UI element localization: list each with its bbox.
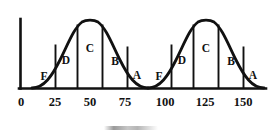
cropped-caption-fragment bbox=[104, 126, 158, 130]
x-tick-label-100: 100 bbox=[156, 95, 175, 109]
region-label-c2-b: B bbox=[227, 55, 235, 67]
bell-curve-1 bbox=[32, 20, 148, 88]
x-tick-label-50: 50 bbox=[84, 95, 97, 109]
region-label-c1-f: F bbox=[40, 70, 47, 82]
region-label-c2-d: D bbox=[178, 54, 186, 66]
x-tick-label-125: 125 bbox=[196, 95, 215, 109]
x-tick-label-150: 150 bbox=[234, 95, 253, 109]
x-tick-label-75: 75 bbox=[119, 95, 132, 109]
region-label-c1-b: B bbox=[111, 55, 119, 67]
chart-figure: F D C B A F D C B A 0 25 50 75 100 125 1… bbox=[0, 0, 269, 130]
region-label-c2-a: A bbox=[249, 69, 258, 81]
region-label-c2-f: F bbox=[155, 70, 162, 82]
bell-curve-2 bbox=[148, 20, 264, 88]
region-label-c2-c: C bbox=[202, 42, 210, 54]
x-tick-label-0: 0 bbox=[18, 95, 24, 109]
region-label-c1-d: D bbox=[62, 54, 70, 66]
region-label-c1-a: A bbox=[133, 69, 142, 81]
x-tick-label-25: 25 bbox=[49, 95, 62, 109]
chart-plot-area: F D C B A F D C B A 0 25 50 75 100 125 1… bbox=[0, 0, 269, 130]
region-label-c1-c: C bbox=[86, 42, 94, 54]
